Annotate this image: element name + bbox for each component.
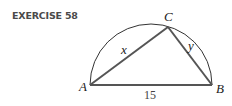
semicircle-arc [90, 24, 212, 85]
vertex-a-label: A [78, 79, 87, 94]
semicircle-triangle-figure: A B C x y 15 [0, 0, 232, 106]
side-y-label: y [186, 38, 194, 53]
vertex-b-label: B [216, 81, 224, 96]
side-x-label: x [120, 42, 127, 57]
side-ac [90, 27, 168, 85]
side-ab-length: 15 [144, 88, 156, 102]
vertex-c-label: C [164, 9, 173, 24]
